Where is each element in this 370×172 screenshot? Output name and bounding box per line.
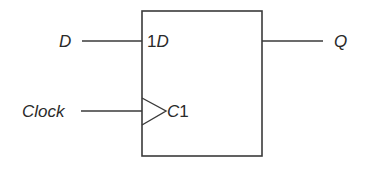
pin-c1-number: 1 xyxy=(179,102,188,121)
output-q-label: Q xyxy=(334,32,347,51)
pin-1d-label: 1D xyxy=(147,32,169,51)
pin-c1-label: C1 xyxy=(167,102,189,121)
pin-1d-number: 1 xyxy=(147,32,156,51)
input-clock-label: Clock xyxy=(22,102,66,121)
d-flip-flop-diagram: D 1D Q Clock C1 xyxy=(0,0,370,172)
input-d-label: D xyxy=(59,32,71,51)
pin-1d-name: D xyxy=(156,32,168,51)
pin-c1-name: C xyxy=(167,102,180,121)
